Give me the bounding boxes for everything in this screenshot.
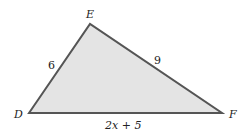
- triangle-def: [29, 24, 222, 113]
- side-label-ef: 9: [154, 54, 161, 67]
- vertex-label-d: D: [13, 108, 23, 121]
- triangle-diagram: E D F 6 9 2x + 5: [0, 0, 249, 133]
- vertex-label-f: F: [228, 108, 237, 121]
- vertex-label-e: E: [85, 8, 94, 21]
- side-label-de: 6: [48, 59, 55, 72]
- side-label-df: 2x + 5: [104, 119, 141, 132]
